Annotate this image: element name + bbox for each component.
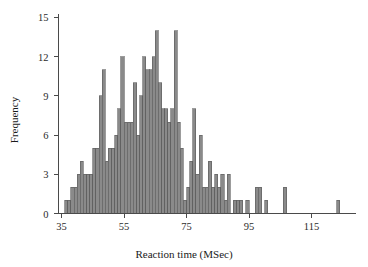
histogram-bar xyxy=(205,187,208,213)
histogram-bar xyxy=(212,187,215,213)
histogram-bar xyxy=(149,70,152,214)
x-tick-label: 115 xyxy=(304,221,319,232)
histogram-bar xyxy=(171,109,174,214)
histogram-bar xyxy=(237,200,240,213)
histogram-bar xyxy=(158,83,161,214)
histogram-bar xyxy=(196,174,199,213)
histogram-bar xyxy=(202,187,205,213)
histogram-bar xyxy=(99,96,102,214)
histogram-bars xyxy=(65,31,340,214)
y-tick-label: 0 xyxy=(43,209,48,220)
histogram-figure: 35557595115 03691215 Reaction time (MSec… xyxy=(0,0,368,267)
histogram-bar xyxy=(130,122,133,213)
histogram-bar xyxy=(155,31,158,214)
histogram-bar xyxy=(87,174,90,213)
histogram-bar xyxy=(68,200,71,213)
histogram-bar xyxy=(255,187,258,213)
histogram-bar xyxy=(258,187,261,213)
histogram-bar xyxy=(180,148,183,213)
histogram-bar xyxy=(174,31,177,214)
histogram-bar xyxy=(118,109,121,214)
y-axis-title: Frequency xyxy=(8,96,20,143)
histogram-bar xyxy=(93,148,96,213)
histogram-bar xyxy=(221,174,224,213)
histogram-bar xyxy=(233,200,236,213)
x-tick-label: 35 xyxy=(56,221,67,232)
histogram-bar xyxy=(124,122,127,213)
histogram-bar xyxy=(137,135,140,213)
histogram-bar xyxy=(215,174,218,213)
x-tick-label: 55 xyxy=(119,221,130,232)
histogram-bar xyxy=(337,200,340,213)
histogram-bar xyxy=(133,83,136,214)
y-tick-label: 6 xyxy=(43,130,48,141)
histogram-bar xyxy=(227,174,230,213)
histogram-bar xyxy=(71,187,74,213)
histogram-bar xyxy=(283,187,286,213)
x-axis-ticks: 35557595115 xyxy=(56,214,319,232)
histogram-bar xyxy=(240,200,243,213)
histogram-bar xyxy=(108,148,111,213)
histogram-bar xyxy=(265,200,268,213)
histogram-bar xyxy=(90,174,93,213)
histogram-bar xyxy=(224,200,227,213)
histogram-bar xyxy=(183,200,186,213)
histogram-bar xyxy=(162,109,165,214)
histogram-bar xyxy=(190,161,193,213)
histogram-bar xyxy=(146,70,149,214)
histogram-bar xyxy=(168,122,171,213)
histogram-bar xyxy=(102,70,105,214)
x-axis-title: Reaction time (MSec) xyxy=(135,248,232,261)
histogram-bar xyxy=(218,187,221,213)
histogram-bar xyxy=(208,161,211,213)
histogram-bar xyxy=(187,187,190,213)
y-tick-label: 9 xyxy=(43,91,48,102)
y-tick-label: 12 xyxy=(38,52,49,63)
histogram-bar xyxy=(140,96,143,214)
chart-canvas: 35557595115 03691215 Reaction time (MSec… xyxy=(0,0,368,267)
histogram-bar xyxy=(80,161,83,213)
histogram-bar xyxy=(193,109,196,214)
histogram-bar xyxy=(165,109,168,214)
histogram-bar xyxy=(143,57,146,214)
histogram-bar xyxy=(105,161,108,213)
y-tick-label: 15 xyxy=(38,12,49,23)
histogram-bar xyxy=(152,57,155,214)
histogram-bar xyxy=(74,187,77,213)
histogram-bar xyxy=(115,135,118,213)
histogram-bar xyxy=(96,148,99,213)
histogram-bar xyxy=(199,135,202,213)
x-tick-label: 95 xyxy=(244,221,255,232)
histogram-bar xyxy=(112,148,115,213)
y-tick-label: 3 xyxy=(43,169,48,180)
histogram-bar xyxy=(65,200,68,213)
histogram-bar xyxy=(121,57,124,214)
histogram-bar xyxy=(77,174,80,213)
histogram-bar xyxy=(127,122,130,213)
histogram-bar xyxy=(83,174,86,213)
histogram-bar xyxy=(177,122,180,213)
x-tick-label: 75 xyxy=(181,221,192,232)
histogram-bar xyxy=(246,200,249,213)
y-axis-ticks: 03691215 xyxy=(38,12,59,219)
